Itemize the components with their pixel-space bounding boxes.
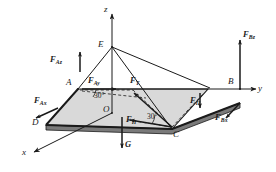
point-label-A: A bbox=[66, 78, 72, 87]
axis-label-z: z bbox=[104, 5, 108, 14]
diagram-canvas bbox=[0, 0, 276, 172]
dot-O bbox=[111, 112, 113, 114]
point-label-C: C bbox=[173, 130, 179, 139]
point-label-B: B bbox=[228, 77, 234, 86]
dot-A bbox=[77, 88, 79, 90]
point-label-O: O bbox=[103, 105, 110, 114]
force-label-F_Ax: FAx bbox=[34, 96, 46, 105]
force-label-F_Az: FAz bbox=[50, 55, 62, 64]
force-label-G: G bbox=[125, 140, 131, 149]
dot-B bbox=[239, 88, 241, 90]
force-label-F_Bz: FBz bbox=[243, 30, 255, 39]
angle-label-C: 30° bbox=[147, 113, 158, 121]
force-label-F_T: FT bbox=[130, 76, 139, 85]
physics-diagram: z y x E A B C D O FAz FAx FAy FT FП FП F… bbox=[0, 0, 276, 172]
dot-E bbox=[111, 46, 113, 48]
point-label-E: E bbox=[98, 40, 104, 49]
angle-label-A: 30° bbox=[94, 92, 105, 100]
force-label-F_Ay: FAy bbox=[88, 76, 100, 85]
axis-label-x: x bbox=[22, 148, 26, 157]
axis-label-y: y bbox=[258, 84, 262, 93]
force-label-F_P-down: FП bbox=[190, 96, 200, 105]
point-label-D: D bbox=[32, 118, 39, 127]
force-label-F_P-left: FП bbox=[126, 115, 136, 124]
force-label-F_Bx: FBx bbox=[215, 113, 227, 122]
